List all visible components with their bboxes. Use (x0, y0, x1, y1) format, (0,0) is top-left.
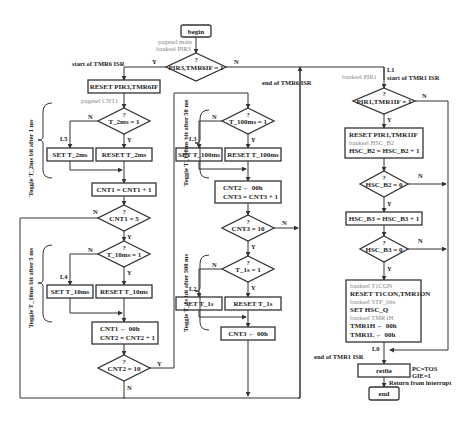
no-label: N (212, 113, 217, 120)
svg-text:?: ? (122, 358, 125, 365)
label-l0: L0 (372, 345, 380, 352)
svg-text:RESET PIR1,TMR1IF: RESET PIR1,TMR1IF (349, 131, 418, 139)
decision-cnt1: ? CNT1 = 5 (98, 205, 150, 231)
svg-text:?: ? (382, 239, 385, 246)
no-label: N (93, 208, 98, 215)
end-terminal: end (369, 387, 399, 400)
svg-text:banksel STP_bits: banksel STP_bits (350, 298, 396, 305)
brace-100ms: Toggle T_100ms bit after 50 ms (182, 99, 209, 186)
svg-text:Toggle T_10ms bit after 5 ms: Toggle T_10ms bit after 5 ms (27, 247, 34, 328)
svg-text:?: ? (122, 111, 125, 118)
svg-text:T_10ms = 1: T_10ms = 1 (107, 251, 142, 259)
end-tmr1-label: end of TMR1 ISR (314, 353, 364, 360)
svg-text:SET HSC_Q: SET HSC_Q (350, 306, 389, 314)
svg-text:?: ? (194, 56, 197, 63)
set-t10ms-box: SET T_10ms (47, 285, 93, 298)
label-l1: L1 (387, 66, 395, 73)
begin-terminal: begin (181, 25, 211, 37)
svg-text:SET T_10ms: SET T_10ms (51, 288, 90, 296)
svg-text:CNT3 = CNT3 + 1: CNT3 = CNT3 + 1 (223, 193, 279, 201)
svg-text:T_2ms = 1: T_2ms = 1 (108, 118, 140, 126)
decision-t2ms: ? T_2ms = 1 (98, 108, 150, 134)
no-label: N (422, 92, 427, 99)
cnt1-inc-box: CNT1 = CNT1 + 1 (92, 183, 156, 196)
set-t2ms-box: SET T_2ms (47, 148, 93, 161)
reset-t10ms-box: RESET T_10ms (96, 285, 152, 298)
svg-text:?: ? (382, 90, 385, 97)
yes-label: Y (251, 284, 256, 291)
svg-text:banksel T1CON: banksel T1CON (350, 282, 393, 289)
svg-text:RESET T_100ms: RESET T_100ms (227, 151, 279, 159)
svg-text:?: ? (246, 111, 249, 118)
reset-t2ms-box: RESET T_2ms (96, 148, 152, 161)
svg-text:?: ? (246, 259, 249, 266)
svg-text:CNT1 = 5: CNT1 = 5 (109, 215, 139, 223)
svg-text:T_1s = 1: T_1s = 1 (235, 266, 261, 274)
note-return-from-interrupt: Return from interrupt (389, 379, 452, 386)
svg-text:retfie: retfie (376, 367, 392, 375)
svg-text:?: ? (382, 174, 385, 181)
yes-label: Y (152, 58, 157, 65)
yes-label: Y (251, 136, 256, 143)
no-label: N (282, 219, 287, 226)
svg-text:HSC_B3 = HSC_B3 + 1: HSC_B3 = HSC_B3 + 1 (349, 215, 420, 223)
svg-text:end: end (379, 390, 390, 398)
yes-label: Y (387, 116, 392, 123)
svg-text:?: ? (122, 244, 125, 251)
reset-t1s-box: RESET T_1s (225, 297, 281, 310)
no-label: N (212, 261, 217, 268)
svg-text:HSC_B3 = 0: HSC_B3 = 0 (365, 246, 403, 254)
svg-text:RESET T_1s: RESET T_1s (234, 300, 273, 308)
reset-tmr1if-box: RESET PIR1,TMR1IF banksel HSC_B2 HSC_B2 … (345, 128, 423, 158)
svg-text:banksel TMR1H: banksel TMR1H (350, 314, 394, 321)
svg-text:TMR1H ← 00h: TMR1H ← 00h (350, 322, 397, 330)
decision-t1s: ? T_1s = 1 (222, 256, 274, 282)
svg-text:?: ? (246, 218, 249, 225)
svg-text:CNT3 ← 00h: CNT3 ← 00h (228, 330, 268, 338)
svg-text:CNT2 = CNT2 + 1: CNT2 = CNT2 + 1 (100, 334, 156, 342)
label-l5: L5 (60, 135, 68, 142)
end-tmr6-label: end of TMR6 ISR (262, 79, 312, 86)
decision-cnt2: ? CNT2 = 10 (98, 355, 150, 381)
note-gie: GIE=1 (412, 372, 431, 379)
cnt2-clear-box: CNT2 ← 00h CNT3 = CNT3 + 1 (215, 181, 281, 203)
yes-label: Y (127, 136, 132, 143)
svg-text:CNT3 = 10: CNT3 = 10 (232, 225, 265, 233)
no-label: N (418, 237, 423, 244)
cnt1-clear-box: CNT1 ← 00h CNT2 = CNT2 + 1 (92, 322, 158, 344)
yes-label: Y (251, 243, 256, 250)
yes-label: Y (157, 360, 162, 367)
isr-flowchart: begin pagesel main banksel PIR3 ? PIR3,T… (0, 0, 470, 421)
final-tmr1-box: banksel T1CON RESET T1CON,TMR1ON banksel… (346, 280, 430, 342)
svg-text:RESET T1CON,TMR1ON: RESET T1CON,TMR1ON (350, 290, 430, 298)
svg-text:CNT2 = 10: CNT2 = 10 (108, 365, 141, 373)
yes-label: Y (387, 265, 392, 272)
reset-tmr6if-box: RESET PIR3,TMR6IF (88, 80, 160, 93)
svg-text:CNT2 ← 00h: CNT2 ← 00h (223, 184, 263, 192)
svg-text:RESET T_10ms: RESET T_10ms (100, 288, 148, 296)
cnt3-clear-box: CNT3 ← 00h (221, 327, 275, 340)
reset-t100ms-box: RESET T_100ms (225, 148, 281, 161)
no-label: N (88, 246, 93, 253)
decision-cnt3: ? CNT3 = 10 (222, 215, 274, 241)
decision-hscb3: ? HSC_B3 = 0 (360, 236, 408, 262)
no-label: N (88, 113, 93, 120)
svg-text:Toggle T_1s bit after 500 ms: Toggle T_1s bit after 500 ms (182, 254, 189, 333)
svg-text:SET T_2ms: SET T_2ms (53, 151, 88, 159)
svg-text:PIR1,TMR1IF = 1: PIR1,TMR1IF = 1 (357, 98, 412, 106)
note-pc-tos: PC=TOS (412, 365, 438, 372)
svg-text:PIR3,TMR6IF = 1: PIR3,TMR6IF = 1 (169, 64, 224, 72)
retfie-box: retfie (358, 364, 410, 377)
decision-pir1-tmr1if: ? PIR1,TMR1IF = 1 (353, 88, 415, 114)
yes-label: Y (387, 200, 392, 207)
svg-text:HSC_B2 = 0: HSC_B2 = 0 (365, 181, 403, 189)
no-label: N (418, 172, 423, 179)
note-banksel-pir1: banksel PIR1 (342, 73, 377, 80)
decision-hscb2: ? HSC_B2 = 0 (360, 171, 408, 197)
svg-text:RESET T_2ms: RESET T_2ms (102, 151, 147, 159)
decision-t100ms: ? T_100ms = 1 (222, 108, 274, 134)
no-label: N (234, 58, 239, 65)
brace-1s: Toggle T_1s bit after 500 ms (182, 254, 209, 333)
svg-text:Toggle T_2ms bit after 1 ms: Toggle T_2ms bit after 1 ms (27, 119, 34, 196)
svg-text:begin: begin (188, 28, 204, 36)
